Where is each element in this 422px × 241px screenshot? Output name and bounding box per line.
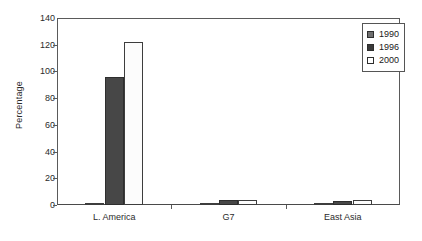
bar-g7-2000 — [238, 200, 257, 205]
y-tick-mark — [53, 152, 57, 153]
bar-l-america-1996 — [105, 77, 124, 205]
y-tick-mark — [53, 45, 57, 46]
legend-swatch-1996-icon — [367, 44, 374, 51]
legend-swatch-1990-icon — [367, 31, 374, 38]
legend-item-1990[interactable]: 1990 — [367, 28, 399, 41]
y-tick-mark — [53, 178, 57, 179]
bar-l-america-2000 — [124, 42, 143, 205]
y-tick-mark — [53, 98, 57, 99]
y-tick-label: 100 — [0, 66, 61, 76]
x-tick-label: L. America — [93, 212, 136, 222]
bar-g7-1990 — [200, 203, 219, 205]
x-tick-label: G7 — [222, 212, 234, 222]
y-tick-label: 20 — [0, 173, 61, 183]
legend-item-2000[interactable]: 2000 — [367, 54, 399, 67]
legend-label-2000: 2000 — [379, 55, 399, 66]
y-tick-label: 120 — [0, 40, 61, 50]
bar-east-asia-2000 — [353, 200, 372, 205]
x-tick-mark — [171, 205, 172, 209]
y-tick-label: 60 — [0, 120, 61, 130]
x-tick-label: East Asia — [324, 212, 362, 222]
legend-swatch-2000-icon — [367, 57, 374, 64]
bar-chart: Percentage 020406080100120140 L. America… — [0, 0, 422, 241]
bar-east-asia-1990 — [314, 203, 333, 205]
y-tick-label: 0 — [0, 200, 61, 210]
y-tick-label: 80 — [0, 93, 61, 103]
x-tick-mark — [286, 205, 287, 209]
legend-label-1990: 1990 — [379, 29, 399, 40]
y-tick-mark — [53, 205, 57, 206]
bar-east-asia-1996 — [333, 201, 352, 205]
y-tick-mark — [53, 71, 57, 72]
y-tick-label: 140 — [0, 13, 61, 23]
bar-l-america-1990 — [85, 203, 104, 205]
legend-item-1996[interactable]: 1996 — [367, 41, 399, 54]
legend: 1990 1996 2000 — [362, 23, 405, 72]
bar-g7-1996 — [219, 200, 238, 205]
y-tick-label: 40 — [0, 147, 61, 157]
legend-label-1996: 1996 — [379, 42, 399, 53]
y-tick-mark — [53, 125, 57, 126]
